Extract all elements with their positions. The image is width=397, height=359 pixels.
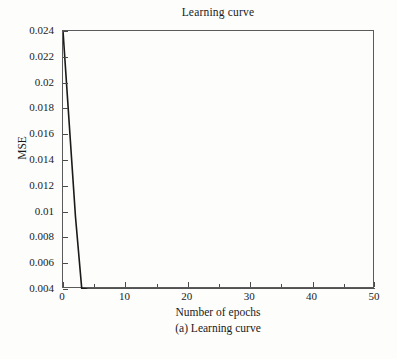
y-axis-tick-labels: 0.0040.0060.0080.010.0120.0140.0160.0180… [0, 30, 58, 288]
plot-area [62, 30, 374, 288]
x-tick-label: 30 [244, 290, 255, 302]
chart-title: Learning curve [62, 6, 374, 18]
x-tick-mark [374, 282, 375, 287]
y-tick-label: 0.012 [29, 179, 58, 191]
x-tick-mark-minor [157, 284, 158, 287]
y-tick-label: 0.01 [35, 205, 58, 217]
y-tick-label: 0.018 [29, 101, 58, 113]
x-tick-mark-minor [219, 284, 220, 287]
y-tick-mark [63, 134, 68, 135]
x-tick-mark-minor [281, 284, 282, 287]
y-tick-label: 0.02 [35, 76, 58, 88]
x-tick-label: 50 [369, 290, 380, 302]
y-tick-label: 0.004 [29, 282, 58, 294]
y-tick-mark [63, 160, 68, 161]
x-tick-mark [125, 282, 126, 287]
y-tick-label: 0.024 [29, 24, 58, 36]
x-axis-tick-labels: 01020304050 [62, 290, 374, 306]
x-axis-label: Number of epochs [62, 306, 374, 318]
x-tick-label: 20 [181, 290, 192, 302]
y-tick-mark [63, 31, 68, 32]
x-tick-mark [313, 282, 314, 287]
y-tick-label: 0.008 [29, 230, 58, 242]
x-tick-label: 0 [59, 290, 65, 302]
series-mse-line [63, 31, 375, 289]
y-tick-label: 0.014 [29, 153, 58, 165]
y-tick-label: 0.022 [29, 50, 58, 62]
x-tick-mark-minor [94, 284, 95, 287]
y-tick-mark [63, 212, 68, 213]
y-tick-mark [63, 108, 68, 109]
y-tick-label: 0.006 [29, 256, 58, 268]
y-tick-mark [63, 83, 68, 84]
data-line-svg [63, 31, 375, 289]
x-tick-mark-minor [344, 284, 345, 287]
y-tick-mark [63, 186, 68, 187]
y-tick-label: 0.016 [29, 127, 58, 139]
y-tick-mark [63, 237, 68, 238]
x-tick-mark [188, 282, 189, 287]
x-tick-mark [63, 282, 64, 287]
figure-caption: (a) Learning curve [62, 322, 374, 334]
x-tick-label: 10 [119, 290, 130, 302]
y-tick-mark [63, 263, 68, 264]
x-tick-label: 40 [306, 290, 317, 302]
learning-curve-figure: Learning curve MSE 0.0040.0060.0080.010.… [0, 0, 397, 359]
x-tick-mark [250, 282, 251, 287]
y-tick-mark [63, 57, 68, 58]
